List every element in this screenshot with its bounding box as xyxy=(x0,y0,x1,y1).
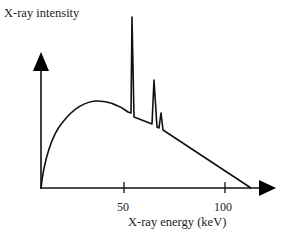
x-axis-label: X-ray energy (keV) xyxy=(128,215,226,230)
y-axis-arrow-icon xyxy=(33,52,49,71)
xray-spectrum-diagram xyxy=(0,0,287,238)
x-axis-arrow-icon xyxy=(259,180,276,196)
spectrum-curve xyxy=(41,17,251,188)
y-axis-label: X-ray intensity xyxy=(4,6,79,21)
tick-label-100: 100 xyxy=(214,200,232,215)
tick-label-50: 50 xyxy=(117,200,129,215)
